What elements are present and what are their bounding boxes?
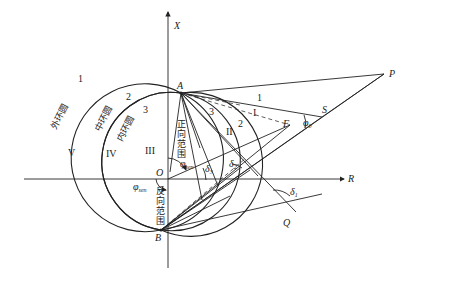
middle-ring-circle xyxy=(102,92,181,230)
x-axis-label: X xyxy=(173,20,181,31)
point-F-label: F xyxy=(282,118,290,129)
forward-range-label: 正 向 范 围 xyxy=(177,119,186,159)
reverse-range-label: 反 向 范 围 xyxy=(156,186,165,226)
point-B-label: B xyxy=(155,232,161,243)
region-III: III xyxy=(145,145,155,156)
svg-text:向: 向 xyxy=(177,128,186,139)
svg-text:范: 范 xyxy=(177,138,186,149)
region-V: V xyxy=(68,147,76,158)
origin-label: O xyxy=(156,167,163,178)
region-IV: IV xyxy=(106,148,117,159)
left-circle-1-num: 1 xyxy=(78,73,83,84)
delta3-label: δ3 xyxy=(205,163,213,175)
right-circle-1-num: 1 xyxy=(257,92,262,103)
right-circle-2-num: 2 xyxy=(238,118,243,129)
point-Q-label: Q xyxy=(283,217,291,228)
point-B-dot xyxy=(159,228,162,231)
point-A-dot xyxy=(179,91,182,94)
svg-text:正: 正 xyxy=(177,119,186,129)
lines-from-A xyxy=(170,74,384,212)
svg-text:反: 反 xyxy=(156,186,165,196)
middle-ring-label: 中环圆 xyxy=(92,104,114,133)
left-circle-2-num: 2 xyxy=(126,91,131,102)
diagram-canvas: X R O A B P S F Q 1 2 3 外环圆 中环圆 内环圆 V IV… xyxy=(0,0,458,281)
inner-ring-circle xyxy=(102,92,181,230)
phi-sen-label-bottom: φsen xyxy=(133,181,147,193)
region-I: I xyxy=(253,107,256,118)
impedance-relay-diagram: X R O A B P S F Q 1 2 3 外环圆 中环圆 内环圆 V IV… xyxy=(0,0,458,281)
line-S-P xyxy=(322,74,384,117)
delta1-label: δ1 xyxy=(290,186,298,198)
outer-ring-label: 外环圆 xyxy=(48,102,70,131)
point-S-label: S xyxy=(322,104,327,115)
point-P-label: P xyxy=(388,68,395,79)
region-II: II xyxy=(226,126,233,137)
phi-sen-label-top: φsen xyxy=(180,158,194,170)
svg-text:向: 向 xyxy=(156,195,165,206)
delta2-label: δ2 xyxy=(229,158,237,170)
right-circle-3-num: 3 xyxy=(209,106,214,117)
left-circle-3-num: 3 xyxy=(143,104,148,115)
r-axis-label: R xyxy=(347,173,354,184)
point-A-label: A xyxy=(176,80,184,91)
svg-text:范: 范 xyxy=(156,205,165,216)
svg-text:围: 围 xyxy=(156,216,165,226)
phi0-label: φ0 xyxy=(303,117,312,129)
